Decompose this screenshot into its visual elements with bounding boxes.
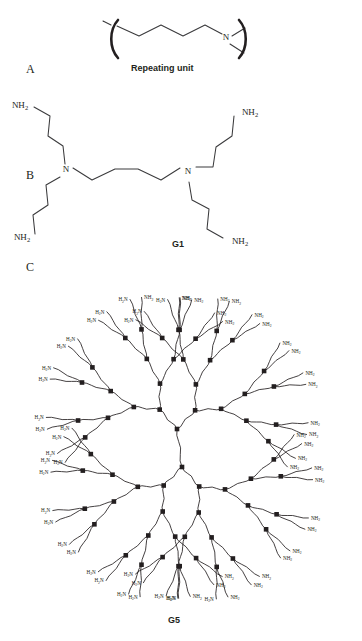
bracket-left-tick: [103, 21, 111, 25]
terminal-amine-nh2: NH2: [254, 582, 263, 589]
dendrimer-bond: [264, 343, 280, 371]
terminal-amine-nh2: NH2: [262, 573, 271, 580]
dendrimer-bond: [266, 529, 290, 551]
dendrimer-figure: A N Repeating unit B N NH2 NH2 N NH2: [0, 0, 362, 641]
dendrimer-bond: [182, 467, 199, 487]
dendrimer-bond: [65, 437, 85, 462]
terminal-amine-nh2: NH2: [282, 340, 291, 347]
terminal-amine-h2n: H2N: [95, 309, 105, 316]
dendrimer-bond: [78, 418, 108, 421]
dendrimer-bond: [159, 384, 161, 410]
dendrimer-bond: [51, 470, 83, 472]
dendrimer-bond: [114, 487, 138, 502]
panel-c-caption: G5: [168, 616, 180, 625]
dendrimer-bond: [251, 476, 281, 479]
terminal-amine-nh2: NH2: [309, 431, 318, 438]
terminal-amine-nh2: NH2: [225, 573, 234, 580]
terminal-amine-h2n: H2N: [87, 569, 97, 576]
dendrimer-bond: [212, 537, 217, 567]
panel-a-chain: [117, 25, 222, 36]
terminal-amine-nh2: NH2: [193, 593, 202, 600]
dendrimer-bond: [248, 505, 277, 514]
panel-b-terminal-lower-left: NH2: [14, 232, 30, 243]
terminal-amine-nh2: NH2: [311, 420, 320, 427]
terminal-amine-nh2: NH2: [315, 477, 324, 484]
dendrimer-bond: [160, 410, 177, 429]
panel-b-nitrogen-left: N: [63, 164, 70, 174]
dendrimer-bond: [277, 514, 305, 529]
terminal-amine-nh2: NH2: [225, 319, 234, 326]
terminal-amine-h2n: H2N: [117, 591, 127, 598]
dendrimer-bond: [221, 394, 245, 409]
dendrimer-bond: [98, 555, 126, 571]
terminal-amine-nh2: NH2: [292, 548, 301, 555]
terminal-amine-h2n: H2N: [60, 425, 70, 432]
terminal-amine-nh2: NH2: [314, 465, 323, 472]
dendrimer-bond: [92, 367, 110, 391]
terminal-amine-nh2: NH2: [297, 432, 306, 439]
dendrimer-bond: [166, 566, 178, 596]
dendrimer-bond: [113, 475, 138, 487]
panel-a-nitrogen-label: N: [223, 32, 230, 42]
dendrimer-bond: [264, 351, 289, 371]
panel-b-arm-lower-right: [189, 182, 223, 238]
terminal-amine-h2n: H2N: [35, 414, 45, 421]
dendrimer-bond: [217, 302, 230, 331]
terminal-amine-nh2: NH2: [305, 370, 314, 377]
dendrimer-bond: [196, 313, 215, 339]
dendrimer-bond: [134, 406, 160, 409]
panel-b-core-chain: [73, 168, 180, 180]
dendrimer-bond: [144, 312, 162, 339]
panel-b-structure: N NH2 NH2 N NH2 NH2: [0, 88, 362, 248]
dendrimer-bond: [69, 524, 94, 544]
dendrimer-bond: [180, 566, 191, 596]
panel-a-structure: N: [0, 0, 362, 95]
dendrimer-bond: [164, 467, 182, 486]
terminal-amine-h2n: H2N: [41, 507, 51, 514]
terminal-amine-nh2: NH2: [304, 441, 313, 448]
dendrimer-bond: [198, 487, 200, 513]
panel-b-terminal-upper-left: NH2: [12, 100, 28, 111]
dendrimer-bond: [143, 557, 162, 583]
dendrimer-bond: [233, 559, 260, 577]
dendrimer-bond: [185, 513, 199, 537]
dendrimer-bond: [195, 409, 221, 411]
terminal-amine-nh2: NH2: [232, 298, 241, 305]
dendrimer-bond: [248, 505, 266, 529]
panel-b-arm-upper-right: [196, 116, 234, 167]
terminal-amine-h2n: H2N: [66, 336, 76, 343]
panel-b-nitrogen-right: N: [185, 166, 192, 176]
dendrimer-bond: [162, 486, 164, 512]
dendrimer-bond: [163, 512, 176, 537]
panel-a-caption: Repeating unit: [131, 64, 194, 73]
panel-b-caption: G1: [172, 240, 184, 249]
dendrimer-bond: [78, 524, 94, 552]
dendrimer-bond: [266, 529, 280, 558]
dendrimer-bond: [221, 409, 246, 421]
terminal-amine-h2n: H2N: [38, 376, 48, 383]
dendrimer-bond: [68, 346, 92, 367]
dendrimer-bond: [148, 512, 162, 536]
dendrimer-bond: [232, 324, 259, 341]
terminal-amine-nh2: NH2: [230, 594, 239, 601]
dendrimer-bond: [168, 300, 179, 330]
dendrimer-bond: [46, 417, 78, 420]
terminal-amine-h2n: H2N: [128, 594, 138, 601]
dendrimer-bond: [54, 368, 82, 383]
panel-c-structure: H2NH2NH2NH2NH2NH2NH2NH2NH2NH2NH2NNH2NH2N…: [0, 258, 362, 633]
terminal-amine-h2n: H2N: [166, 595, 176, 602]
terminal-amine-h2n: H2N: [42, 365, 52, 372]
terminal-amine-h2n: H2N: [52, 434, 62, 441]
dendrimer-bond: [142, 329, 147, 359]
dendrimer-bond: [199, 487, 225, 490]
terminal-amine-h2n: H2N: [94, 577, 104, 584]
dendrimer-bond: [138, 485, 164, 487]
dendrimer-bond: [196, 558, 214, 585]
panel-b-arm-upper-left: [34, 107, 65, 164]
dendrimer-bond: [195, 384, 197, 410]
terminal-amine-nh2: NH2: [291, 348, 300, 355]
bracket-right-icon: [239, 20, 246, 58]
terminal-amine-nh2: NH2: [255, 312, 264, 319]
terminal-amine-h2n: H2N: [124, 317, 134, 324]
dendrimer-bond: [147, 359, 160, 384]
